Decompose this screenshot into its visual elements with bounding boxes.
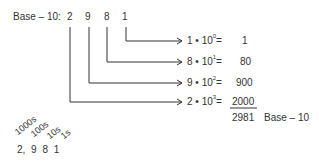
- equation-row-hundreds: 9 • 102=: [187, 77, 222, 88]
- value-tens: 80: [240, 56, 251, 67]
- equation-row-ones: 1 • 100=: [187, 35, 222, 46]
- equation-row-thousands: 2 • 103=: [187, 96, 222, 107]
- value-thousands: 2000: [232, 96, 254, 107]
- total-label: Base – 10: [264, 112, 309, 123]
- value-hundreds: 900: [236, 77, 253, 88]
- value-ones: 1: [242, 35, 248, 46]
- place-digits: 2, 9 8 1: [17, 144, 59, 155]
- total-value: 2981: [232, 112, 254, 123]
- equation-row-tens: 8 • 101=: [187, 56, 222, 67]
